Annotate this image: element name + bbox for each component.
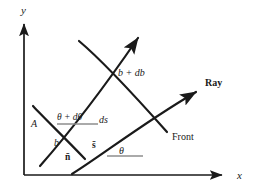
theta-plus-dtheta-label: θ + dθ xyxy=(57,112,83,122)
ray-group xyxy=(40,38,196,174)
ds-label: ds xyxy=(99,114,108,125)
label-group: A θ + dθ b b + db ds n̄ s̄ θ Ray Front xyxy=(30,67,222,162)
b-label: b xyxy=(54,137,59,148)
y-axis-label: y xyxy=(20,4,26,16)
diagram-canvas: x y A θ + dθ b b + db ds xyxy=(0,0,261,189)
x-axis-label: x xyxy=(236,169,242,181)
s-bar-vector-label: s̄ xyxy=(92,140,96,150)
theta-label: θ xyxy=(119,145,124,156)
n-bar-vector-label: n̄ xyxy=(65,152,71,162)
point-a-label: A xyxy=(30,118,38,129)
ray-front-diagram: x y A θ + dθ b b + db ds xyxy=(0,0,261,189)
front-label: Front xyxy=(172,131,194,142)
b-plus-db-label: b + db xyxy=(118,67,145,78)
ray-label: Ray xyxy=(205,77,222,88)
